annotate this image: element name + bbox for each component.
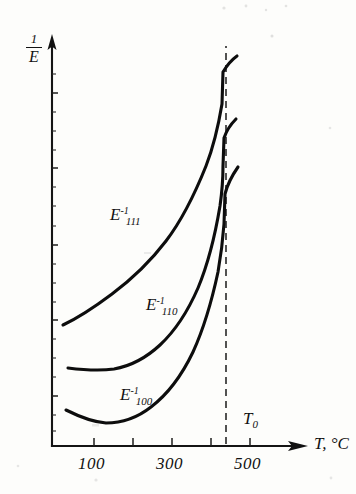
curve-label-e111-subscript: 111 bbox=[126, 215, 141, 227]
x-axis-title: T, °C bbox=[314, 435, 349, 452]
curve-label-e100-subscript: 100 bbox=[136, 395, 153, 407]
y-axis bbox=[48, 34, 59, 446]
x-axis bbox=[52, 438, 308, 451]
t0-label: T0 bbox=[243, 410, 258, 430]
curve-e111 bbox=[63, 56, 237, 325]
figure-root: 1 E E-1111 E-1110 E-1100 T0 100 300 500 … bbox=[0, 0, 356, 494]
y-axis-title-numerator: 1 bbox=[22, 32, 46, 46]
x-tick-label-300: 300 bbox=[156, 455, 183, 472]
y-axis-title-denominator: E bbox=[22, 49, 46, 66]
x-tick-label-500: 500 bbox=[234, 455, 261, 472]
y-axis-title: 1 E bbox=[22, 32, 46, 65]
curve-label-e110: E-1110 bbox=[146, 296, 177, 317]
curve-label-e111: E-1111 bbox=[110, 206, 141, 227]
curve-label-e111-base: E bbox=[110, 205, 120, 224]
curve-label-e100: E-1100 bbox=[120, 386, 152, 407]
paper-specks bbox=[17, 5, 333, 482]
x-tick-label-100: 100 bbox=[78, 455, 105, 472]
curve-label-e110-subscript: 110 bbox=[162, 305, 178, 317]
curve-label-e100-base: E bbox=[120, 385, 130, 404]
t0-label-subscript: 0 bbox=[252, 418, 258, 430]
chart-canvas bbox=[0, 0, 356, 494]
curve-label-e110-base: E bbox=[146, 295, 156, 314]
